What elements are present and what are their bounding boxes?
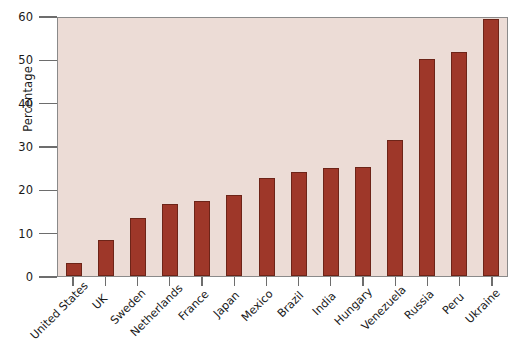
bar: [226, 195, 242, 276]
bar-slot: [411, 18, 443, 276]
y-axis-tick: [39, 190, 57, 191]
x-axis-tick: [105, 277, 106, 286]
x-axis-tick-label: United States: [28, 280, 91, 343]
x-axis-tick: [427, 277, 428, 286]
x-axis-tick: [201, 277, 202, 286]
bar-slot: [475, 18, 507, 276]
x-axis-tick: [298, 277, 299, 286]
bar-slot: [90, 18, 122, 276]
bar: [98, 240, 114, 276]
bar: [355, 167, 371, 276]
bar: [130, 218, 146, 277]
x-axis-tick: [137, 277, 138, 286]
bar-series: [58, 18, 507, 276]
bar-slot: [379, 18, 411, 276]
y-axis-tick-label: 30: [0, 140, 33, 154]
x-axis-tick: [72, 277, 73, 286]
bar-slot: [443, 18, 475, 276]
bar: [419, 59, 435, 276]
y-axis-tick: [39, 276, 57, 277]
bar: [66, 263, 82, 276]
bar: [323, 168, 339, 276]
x-axis-tick: [266, 277, 267, 286]
x-axis-tick-label: Brazil: [275, 289, 306, 320]
plot-area: [57, 17, 508, 277]
y-axis-tick: [39, 60, 57, 61]
bar: [387, 140, 403, 276]
bar-slot: [250, 18, 282, 276]
y-axis-tick-label: 10: [0, 227, 33, 241]
bar-slot: [186, 18, 218, 276]
bar-slot: [283, 18, 315, 276]
bar: [162, 204, 178, 276]
x-axis-tick: [395, 277, 396, 286]
y-axis-tick-label: 50: [0, 53, 33, 67]
bar-slot: [347, 18, 379, 276]
y-axis-tick: [39, 146, 57, 147]
bar-slot: [122, 18, 154, 276]
y-axis-tick-label: 0: [0, 270, 33, 284]
x-axis-tick-label: UK: [90, 292, 110, 312]
y-axis-tick: [39, 16, 57, 17]
bar-slot: [154, 18, 186, 276]
bar: [259, 178, 275, 276]
x-axis-tick-label: Mexico: [239, 287, 276, 324]
y-axis-tick: [39, 233, 57, 234]
y-axis-tick-label: 40: [0, 97, 33, 111]
x-axis-tick-label: India: [310, 290, 339, 319]
bar: [451, 52, 467, 276]
x-axis-tick: [330, 277, 331, 286]
y-axis-tick-label: 60: [0, 10, 33, 24]
x-axis-tick-label: Ukraine: [463, 287, 503, 327]
x-axis-tick: [459, 277, 460, 286]
y-axis-tick: [39, 103, 57, 104]
x-axis-tick: [169, 277, 170, 286]
y-axis-tick-label: 20: [0, 183, 33, 197]
bar: [483, 19, 499, 276]
x-axis-tick: [491, 277, 492, 286]
bar-slot: [58, 18, 90, 276]
bar: [291, 172, 307, 276]
bar: [194, 201, 210, 276]
x-axis-tick: [362, 277, 363, 286]
bar-chart-figure: Percentage 0102030405060United StatesUKS…: [0, 0, 516, 349]
x-axis-tick: [234, 277, 235, 286]
bar-slot: [315, 18, 347, 276]
bar-slot: [218, 18, 250, 276]
x-axis-tick-label: Japan: [211, 289, 242, 320]
x-axis-tick-label: Peru: [440, 290, 467, 317]
